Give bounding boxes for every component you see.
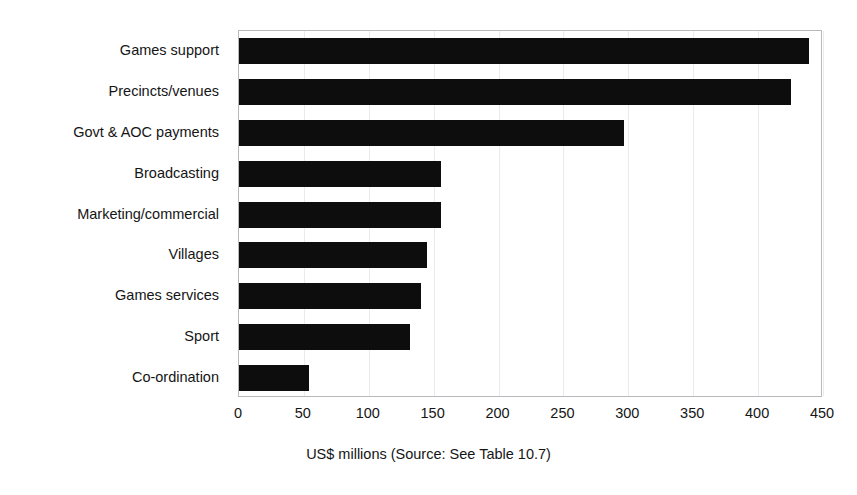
bar — [239, 120, 624, 146]
x-axis-caption: US$ millions (Source: See Table 10.7) — [0, 446, 857, 462]
x-tick-label: 250 — [550, 404, 574, 422]
category-label: Games services — [115, 286, 219, 304]
bar — [239, 324, 410, 350]
chart-title-remnant — [300, 0, 600, 7]
bar — [239, 161, 441, 187]
category-axis-labels: Games supportPrecincts/venuesGovt & AOC … — [0, 30, 229, 397]
category-label: Broadcasting — [134, 164, 219, 182]
category-label: Marketing/commercial — [77, 205, 219, 223]
x-tick-label: 350 — [680, 404, 704, 422]
x-tick-label: 100 — [356, 404, 380, 422]
bar — [239, 38, 809, 64]
bar — [239, 79, 791, 105]
x-tick-label: 400 — [745, 404, 769, 422]
category-label: Villages — [168, 245, 219, 263]
bar — [239, 283, 421, 309]
bar — [239, 202, 441, 228]
x-tick-label: 200 — [485, 404, 509, 422]
category-label: Precincts/venues — [109, 82, 219, 100]
x-tick-label: 150 — [421, 404, 445, 422]
x-tick-label: 50 — [295, 404, 311, 422]
category-label: Games support — [120, 41, 219, 59]
plot-area — [238, 30, 822, 397]
x-tick-label: 0 — [234, 404, 242, 422]
bar — [239, 365, 309, 391]
x-tick-label: 450 — [810, 404, 834, 422]
category-label: Govt & AOC payments — [73, 123, 219, 141]
category-label: Sport — [184, 327, 219, 345]
category-label: Co-ordination — [132, 368, 219, 386]
bar — [239, 242, 427, 268]
x-tick-label: 300 — [615, 404, 639, 422]
bar-chart: Games supportPrecincts/venuesGovt & AOC … — [0, 0, 857, 495]
gridline — [823, 31, 824, 396]
